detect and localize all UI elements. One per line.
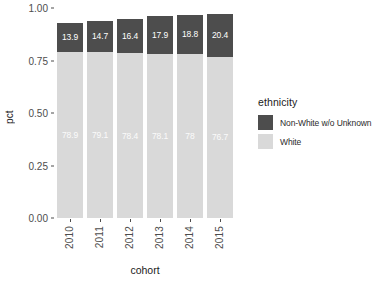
bar-value-label: 18.8 bbox=[182, 30, 198, 39]
bar-value-label: 20.4 bbox=[212, 31, 228, 40]
legend-entries: Non-White w/o UnknownWhite bbox=[258, 115, 386, 149]
bar-value-label: 79.1 bbox=[92, 131, 108, 140]
bar-segment-white[interactable]: 76.7 bbox=[207, 57, 233, 218]
x-axis-tick-label-2012: 2012 bbox=[124, 226, 135, 249]
bar-segment-white[interactable]: 78.1 bbox=[147, 54, 173, 218]
stacked-bar-chart: pct 0.000.250.500.751.00 78.913.979.114.… bbox=[0, 0, 390, 287]
bar-value-label: 78 bbox=[185, 132, 194, 141]
legend-swatch-icon bbox=[258, 134, 273, 149]
y-axis-tick-mark bbox=[51, 218, 54, 219]
bar-value-label: 78.1 bbox=[152, 132, 168, 141]
x-axis-tick-mark bbox=[190, 219, 191, 222]
legend-item[interactable]: Non-White w/o Unknown bbox=[258, 115, 386, 130]
legend-item[interactable]: White bbox=[258, 134, 386, 149]
y-axis-tick-mark bbox=[51, 113, 54, 114]
bar-value-label: 76.7 bbox=[212, 133, 228, 142]
x-axis-tick-label-2011: 2011 bbox=[94, 226, 105, 248]
bar-segment-nonwhite[interactable]: 20.4 bbox=[207, 14, 233, 57]
bar-segment-nonwhite[interactable]: 16.4 bbox=[117, 19, 143, 53]
bar-2010[interactable]: 78.913.9 bbox=[57, 23, 83, 218]
y-axis-tick-label: 0.50 bbox=[18, 108, 48, 119]
legend-item-label: Non-White w/o Unknown bbox=[280, 118, 371, 128]
x-axis-tick-label-2010: 2010 bbox=[64, 226, 75, 249]
y-axis-tick-label: 0.75 bbox=[18, 55, 48, 66]
legend-swatch-icon bbox=[258, 115, 273, 130]
bar-segment-white[interactable]: 79.1 bbox=[87, 52, 113, 218]
x-axis-title: cohort bbox=[55, 264, 235, 276]
x-axis-tick-mark bbox=[100, 219, 101, 222]
x-axis-tick-label-2014: 2014 bbox=[184, 226, 195, 249]
bar-2014[interactable]: 7818.8 bbox=[177, 15, 203, 218]
bar-value-label: 17.9 bbox=[152, 31, 168, 40]
bar-2011[interactable]: 79.114.7 bbox=[87, 21, 113, 218]
bar-segment-nonwhite[interactable]: 13.9 bbox=[57, 23, 83, 52]
x-axis-tick-mark bbox=[160, 219, 161, 222]
x-axis-tick-mark bbox=[70, 219, 71, 222]
bar-value-label: 78.4 bbox=[122, 132, 138, 141]
bar-segment-nonwhite[interactable]: 14.7 bbox=[87, 21, 113, 52]
y-axis-tick-mark bbox=[51, 165, 54, 166]
bar-value-label: 14.7 bbox=[92, 32, 108, 41]
y-axis-tick-mark bbox=[51, 8, 54, 9]
bar-segment-nonwhite[interactable]: 17.9 bbox=[147, 16, 173, 54]
bar-segment-white[interactable]: 78.9 bbox=[57, 52, 83, 218]
plot-panel: 78.913.979.114.778.416.478.117.97818.876… bbox=[55, 8, 235, 218]
bar-2013[interactable]: 78.117.9 bbox=[147, 16, 173, 218]
y-axis-tick-label: 0.00 bbox=[18, 213, 48, 224]
bar-value-label: 16.4 bbox=[122, 32, 138, 41]
bar-segment-white[interactable]: 78.4 bbox=[117, 53, 143, 218]
bar-segment-white[interactable]: 78 bbox=[177, 54, 203, 218]
bar-segment-nonwhite[interactable]: 18.8 bbox=[177, 15, 203, 54]
bar-2015[interactable]: 76.720.4 bbox=[207, 14, 233, 218]
y-axis-tick-mark bbox=[51, 60, 54, 61]
y-axis-tick-label: 1.00 bbox=[18, 3, 48, 14]
y-axis-tick-label: 0.25 bbox=[18, 160, 48, 171]
x-axis-tick-mark bbox=[220, 219, 221, 222]
legend-title: ethnicity bbox=[258, 96, 386, 108]
legend: ethnicity Non-White w/o UnknownWhite bbox=[258, 96, 386, 153]
bar-value-label: 13.9 bbox=[62, 33, 78, 42]
x-axis-tick-mark bbox=[130, 219, 131, 222]
bar-value-label: 78.9 bbox=[62, 131, 78, 140]
bar-2012[interactable]: 78.416.4 bbox=[117, 19, 143, 218]
legend-item-label: White bbox=[280, 137, 301, 147]
x-axis-tick-label-2015: 2015 bbox=[214, 226, 225, 249]
y-axis-title: pct bbox=[2, 104, 16, 130]
x-axis-tick-label-2013: 2013 bbox=[154, 226, 165, 249]
